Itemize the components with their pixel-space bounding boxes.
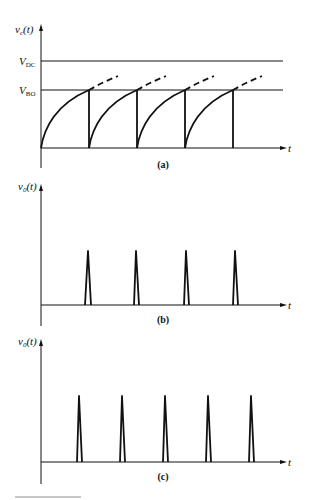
panel-a: vc(t) VDC VBO t (a) xyxy=(15,23,292,171)
pulse xyxy=(77,396,82,462)
sawtooth-waveform xyxy=(41,90,233,148)
panel-b-t-label: t xyxy=(288,299,292,311)
panel-a-caption: (a) xyxy=(157,159,169,171)
panel-b-y-label: v0(t) xyxy=(18,180,37,194)
pulse xyxy=(134,251,139,305)
panel-c-y-label: v0(t) xyxy=(18,335,37,349)
charging-ramp xyxy=(89,90,137,148)
pulse xyxy=(233,251,238,305)
panel-a-t-label: t xyxy=(288,142,292,154)
waveform-figure: vc(t) VDC VBO t (a) v0(t) t (b) xyxy=(0,0,312,500)
dashed-continuation xyxy=(233,76,262,90)
panel-c-t-label: t xyxy=(288,456,292,468)
dashed-continuation xyxy=(185,76,214,90)
pulse-train-c xyxy=(77,396,254,462)
pulse xyxy=(120,396,125,462)
charging-ramp xyxy=(41,90,89,148)
pulse xyxy=(206,396,211,462)
pulse-train-b xyxy=(85,251,238,305)
panel-a-y-label: vc(t) xyxy=(15,23,34,37)
arrow-up-icon xyxy=(39,184,43,191)
arrow-right-icon xyxy=(280,146,287,150)
pulse xyxy=(163,396,168,462)
figure-caption-bar xyxy=(15,496,81,498)
dashed-continuation xyxy=(89,76,118,90)
charging-ramp xyxy=(137,90,185,148)
arrow-right-icon xyxy=(280,303,287,307)
vbo-label: VBO xyxy=(19,84,35,98)
vdc-label: VDC xyxy=(19,55,36,69)
pulse xyxy=(249,396,254,462)
arrow-up-icon xyxy=(39,24,43,31)
panel-c-caption: (c) xyxy=(157,471,168,483)
dashed-continuations xyxy=(89,76,262,90)
panel-c: v0(t) t (c) xyxy=(18,335,292,484)
charging-ramp xyxy=(185,90,233,148)
pulse xyxy=(85,251,91,305)
pulse xyxy=(184,251,189,305)
dashed-continuation xyxy=(137,76,166,90)
panel-b: v0(t) t (b) xyxy=(18,180,292,326)
arrow-up-icon xyxy=(39,339,43,346)
arrow-right-icon xyxy=(280,460,287,464)
panel-b-caption: (b) xyxy=(157,314,169,326)
